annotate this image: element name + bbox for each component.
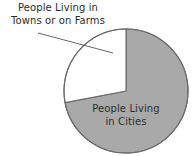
slice-label-cities: People Living in Cities [84,103,168,128]
pie-slice-people-living-in-towns-or-farms [64,29,126,103]
pie-chart-figure: People Living in Towns or on Farms Peopl… [0,0,195,156]
callout-label-towns-or-farms: People Living in Towns or on Farms [2,2,114,27]
